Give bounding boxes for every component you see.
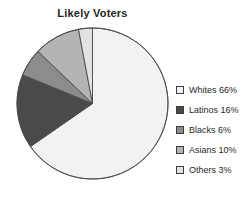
legend-item-blacks: Blacks 6% (176, 124, 252, 136)
legend-swatch-blacks (176, 126, 184, 134)
legend-label-latinos: Latinos 16% (189, 105, 239, 115)
legend-label-whites: Whites 66% (189, 85, 237, 95)
pie-svg (16, 27, 169, 180)
legend-item-latinos: Latinos 16% (176, 104, 252, 116)
chart-legend: Whites 66%Latinos 16%Blacks 6%Asians 10%… (176, 84, 252, 176)
legend-item-others: Others 3% (176, 164, 252, 176)
legend-item-whites: Whites 66% (176, 84, 252, 96)
legend-swatch-latinos (176, 106, 184, 114)
legend-label-blacks: Blacks 6% (189, 125, 231, 135)
pie-chart-figure: Likely Voters Whites 66%Latinos 16%Black… (0, 0, 252, 199)
legend-swatch-whites (176, 86, 184, 94)
legend-label-others: Others 3% (189, 165, 232, 175)
legend-item-asians: Asians 10% (176, 144, 252, 156)
legend-swatch-others (176, 166, 184, 174)
chart-title: Likely Voters (0, 7, 185, 19)
pie-plot-area (16, 27, 169, 180)
legend-label-asians: Asians 10% (189, 145, 237, 155)
legend-swatch-asians (176, 146, 184, 154)
